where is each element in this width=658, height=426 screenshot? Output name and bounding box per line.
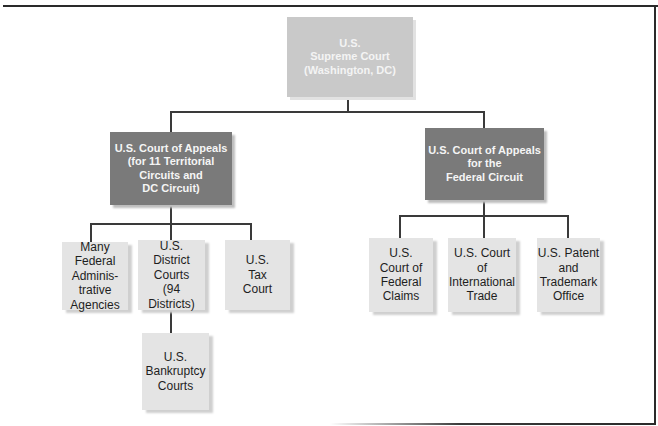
district-courts-box: U.S. District Courts (94 Districts): [138, 240, 205, 310]
patent-trademark-box: U.S. Patent and Trademark Office: [537, 238, 600, 312]
bankruptcy-courts-label: U.S. Bankruptcy Courts: [145, 350, 205, 393]
bankruptcy-courts-box: U.S. Bankruptcy Courts: [142, 333, 209, 410]
frame-border-right: [654, 5, 656, 424]
agencies-box: Many Federal Adminis- trative Agencies: [62, 242, 128, 310]
connector-right-appeals-down: [483, 200, 485, 216]
appeals-federal-circuit-label: U.S. Court of Appeals for the Federal Ci…: [428, 144, 541, 184]
appeals-territorial-box: U.S. Court of Appeals (for 11 Territoria…: [110, 132, 232, 205]
tax-court-label: U.S. Tax Court: [243, 253, 272, 296]
frame-border-top: [3, 5, 658, 7]
connector-to-district: [170, 223, 172, 240]
federal-claims-label: U.S. Court of Federal Claims: [380, 246, 423, 304]
appeals-federal-circuit-box: U.S. Court of Appeals for the Federal Ci…: [425, 128, 544, 200]
international-trade-label: U.S. Court of International Trade: [449, 246, 515, 304]
connector-to-tax: [250, 223, 252, 240]
supreme-court-label: U.S. Supreme Court (Washington, DC): [304, 37, 396, 77]
connector-left-appeals-down: [170, 205, 172, 225]
connector-district-to-bankruptcy: [170, 310, 172, 333]
connector-to-right-appeals: [483, 111, 485, 128]
connector-root-horizontal: [170, 111, 485, 113]
connector-to-left-appeals: [170, 111, 172, 132]
appeals-territorial-label: U.S. Court of Appeals (for 11 Territoria…: [115, 142, 228, 195]
agencies-label: Many Federal Adminis- trative Agencies: [70, 240, 119, 312]
connector-to-claims: [399, 215, 401, 238]
tax-court-box: U.S. Tax Court: [225, 240, 290, 310]
connector-to-patent: [567, 215, 569, 238]
frame-border-bottom: [330, 423, 656, 425]
patent-trademark-label: U.S. Patent and Trademark Office: [538, 246, 599, 304]
supreme-court-box: U.S. Supreme Court (Washington, DC): [287, 17, 413, 97]
international-trade-box: U.S. Court of International Trade: [448, 238, 516, 312]
federal-claims-box: U.S. Court of Federal Claims: [369, 238, 433, 312]
connector-to-intl-trade: [483, 215, 485, 238]
district-courts-label: U.S. District Courts (94 Districts): [148, 239, 195, 311]
